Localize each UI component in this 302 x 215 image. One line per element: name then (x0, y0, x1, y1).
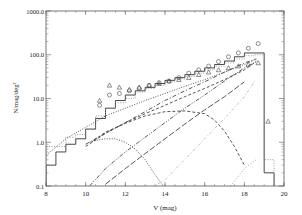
x-tick-label: 10 (82, 190, 90, 198)
series-dotted-smooth-total- (46, 59, 256, 155)
x-tick-label: 20 (281, 190, 289, 198)
x-tick-label: 12 (122, 190, 130, 198)
series-dashed-turnover (94, 111, 245, 165)
series-thin-dash-dot-faint-rise (151, 79, 256, 188)
series-observed-histogram (46, 53, 274, 186)
series-dotted-bump (90, 139, 165, 188)
series-long-dash (106, 82, 245, 184)
x-axis-label: V (mag) (153, 204, 177, 212)
y-axis-label: N/mag/deg² (12, 83, 19, 114)
x-tick-label: 14 (162, 190, 170, 198)
x-tick-label: 8 (44, 190, 48, 198)
x-tick-label: 18 (241, 190, 249, 198)
series-model-total-histogram (46, 55, 274, 186)
y-tick-label: 0.1 (36, 183, 44, 190)
y-tick-label: 1.0 (36, 139, 44, 146)
series-dashed (86, 62, 257, 147)
chart: 8101214161820 0.11.010.0100.01000.0 V (m… (0, 0, 302, 215)
plot-frame (46, 11, 284, 186)
y-tick-label: 10.0 (33, 95, 44, 102)
x-tick-label: 16 (201, 190, 209, 198)
series-dash-dot-upper (86, 59, 257, 144)
y-tick-label: 1000.0 (26, 8, 44, 15)
plot-area (46, 42, 274, 188)
y-tick-label: 100.0 (29, 51, 44, 58)
y-axis: 0.11.010.0100.01000.0 (26, 8, 284, 190)
